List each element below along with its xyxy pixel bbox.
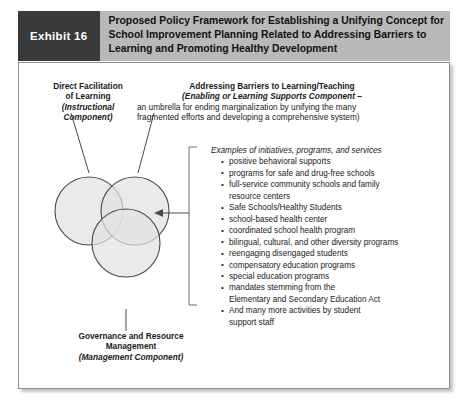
list-item-text: positive behavioral supports: [229, 157, 331, 166]
list-item: coordinated school health program: [221, 225, 445, 236]
label-instructional-line-2: of Learning: [65, 91, 110, 101]
label-instructional-line-1: Direct Facilitation: [53, 81, 123, 91]
list-item-text: school-based health center: [229, 215, 327, 224]
examples-block: Examples of initiatives, programs, and s…: [207, 145, 445, 328]
exhibit-figure-panel: Direct Facilitation of Learning (Instruc…: [18, 62, 450, 389]
list-item: full-service community schools and famil…: [221, 179, 445, 202]
list-item-text: bilingual, cultural, and other diversity…: [229, 238, 398, 247]
list-item-text: reengaging disengaged students: [229, 249, 348, 258]
list-item: mandates stemming from theElementary and…: [221, 282, 445, 305]
label-enabling-line-4: fragmented efforts and developing a comp…: [137, 112, 407, 122]
venn-circle-management: [92, 209, 160, 277]
exhibit-header-band: Exhibit 16 Proposed Policy Framework for…: [18, 11, 450, 61]
list-item: positive behavioral supports: [221, 156, 445, 167]
exhibit-title-line-3: Learning and Promoting Healthy Developme…: [109, 42, 444, 56]
list-item: special education programs: [221, 271, 445, 282]
exhibit-title-line-2: School Improvement Planning Related to A…: [109, 28, 444, 42]
list-item: Safe Schools/Healthy Students: [221, 202, 445, 213]
list-item-text: And many more activities by student: [229, 306, 361, 315]
list-item-text: Safe Schools/Healthy Students: [229, 203, 342, 212]
bracket-icon: [189, 147, 197, 305]
label-management-line-3: (Management Component): [79, 352, 184, 362]
list-item-text: full-service community schools and famil…: [229, 180, 380, 189]
list-item: programs for safe and drug-free schools: [221, 168, 445, 179]
label-enabling-line-2: (Enabling or Learning Supports Component…: [137, 91, 407, 101]
list-item: reengaging disengaged students: [221, 248, 445, 259]
examples-heading: Examples of initiatives, programs, and s…: [207, 145, 445, 156]
list-item: bilingual, cultural, and other diversity…: [221, 237, 445, 248]
label-instructional-line-3: (Instructional: [62, 102, 115, 112]
list-item-text: mandates stemming from the: [229, 283, 335, 292]
list-item: And many more activities by studentsuppo…: [221, 305, 445, 328]
list-item-text: programs for safe and drug-free schools: [229, 169, 375, 178]
list-item-text-cont: support staff: [229, 317, 445, 328]
list-item-text: coordinated school health program: [229, 226, 355, 235]
label-instructional-component: Direct Facilitation of Learning (Instruc…: [33, 81, 143, 122]
exhibit-title: Proposed Policy Framework for Establishi…: [100, 11, 450, 61]
label-management-line-2: Management: [106, 341, 157, 351]
list-item: school-based health center: [221, 214, 445, 225]
label-enabling-line-1: Addressing Barriers to Learning/Teaching: [137, 81, 407, 91]
list-item-text-cont: Elementary and Secondary Education Act: [229, 294, 445, 305]
exhibit-number-tag: Exhibit 16: [18, 11, 100, 61]
label-management-component: Governance and Resource Management (Mana…: [51, 331, 211, 362]
list-item-text-cont: resource centers: [229, 191, 445, 202]
label-enabling-component: Addressing Barriers to Learning/Teaching…: [137, 81, 407, 122]
examples-list: positive behavioral supports programs fo…: [207, 156, 445, 328]
label-management-line-1: Governance and Resource: [78, 331, 183, 341]
list-item: compensatory education programs: [221, 260, 445, 271]
exhibit-title-line-1: Proposed Policy Framework for Establishi…: [109, 14, 444, 28]
list-item-text: special education programs: [229, 272, 329, 281]
list-item-text: compensatory education programs: [229, 261, 355, 270]
label-enabling-line-3: an umbrella for ending marginalization b…: [137, 102, 407, 112]
label-instructional-line-4: Component): [64, 112, 113, 122]
